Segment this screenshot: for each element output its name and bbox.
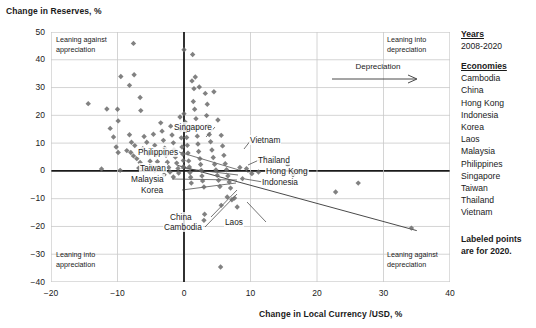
legend-footnote: Labeled points are for 2020. — [461, 233, 533, 257]
quadrant-note-line1: Leaning into — [56, 250, 95, 260]
x-axis-title: Change in Local Currency /USD, % — [259, 309, 402, 319]
point-label-malaysia: Malaysia — [130, 174, 165, 184]
legend-economy-malaysia: Malaysia — [461, 145, 533, 157]
quadrant-note-line2: appreciation — [56, 45, 107, 55]
quadrant-note-line2: depreciation — [387, 45, 426, 55]
legend-spacer — [461, 52, 533, 60]
legend-economy-thailand: Thailand — [461, 194, 533, 206]
legend-economy-vietnam: Vietnam — [461, 206, 533, 218]
point-label-cambodia: Cambodia — [163, 222, 203, 232]
x-tick-label: 30 — [364, 288, 404, 298]
legend-economy-korea: Korea — [461, 121, 533, 133]
y-tick-label: −20 — [17, 221, 45, 231]
quadrant-note-line1: Leaning against — [56, 35, 107, 45]
quadrant-note-bottom-left: Leaning intoappreciation — [56, 250, 95, 269]
point-label-singapore: Singapore — [173, 122, 213, 132]
point-label-taiwan: Taiwan — [139, 163, 167, 173]
legend-economy-philippines: Philippines — [461, 158, 533, 170]
quadrant-note-top-right: Leaning intodepreciation — [387, 35, 426, 54]
depreciation-label: Depreciation — [330, 62, 426, 71]
point-label-hong-kong: Hong Kong — [265, 166, 309, 176]
y-tick-label: 50 — [17, 27, 45, 37]
y-tick-label: −30 — [17, 249, 45, 259]
x-tick-label: 10 — [231, 288, 271, 298]
point-label-thailand: Thailand — [257, 155, 291, 165]
x-tick-label: 20 — [297, 288, 337, 298]
quadrant-note-line2: appreciation — [56, 260, 95, 270]
legend-footnote-line2: are for 2020. — [461, 245, 533, 257]
quadrant-note-line1: Leaning against — [387, 250, 438, 260]
depreciation-annotation: Depreciation — [330, 62, 426, 89]
y-tick-label: −10 — [17, 193, 45, 203]
legend-years-heading: Years — [461, 28, 533, 40]
x-tick-label: −20 — [31, 288, 71, 298]
legend-economy-taiwan: Taiwan — [461, 182, 533, 194]
point-label-indonesia: Indonesia — [261, 177, 299, 187]
legend-panel: Years 2008-2020 Economies CambodiaChinaH… — [461, 28, 533, 257]
legend-economy-hong-kong: Hong Kong — [461, 97, 533, 109]
point-label-korea: Korea — [140, 185, 164, 195]
point-label-china: China — [169, 212, 193, 222]
quadrant-note-bottom-right: Leaning againstdepreciation — [387, 250, 438, 269]
legend-economies-heading: Economies — [461, 60, 533, 72]
legend-years-value: 2008-2020 — [461, 40, 533, 52]
x-tick-label: 40 — [430, 288, 470, 298]
quadrant-note-top-left: Leaning againstappreciation — [56, 35, 107, 54]
arrow-right-icon — [330, 73, 426, 85]
x-tick-label: 0 — [164, 288, 204, 298]
legend-economies-list: CambodiaChinaHong KongIndonesiaKoreaLaos… — [461, 72, 533, 218]
point-label-laos: Laos — [224, 217, 244, 227]
y-tick-label: 40 — [17, 54, 45, 64]
y-tick-label: −40 — [17, 277, 45, 287]
legend-economy-laos: Laos — [461, 133, 533, 145]
quadrant-note-line2: depreciation — [387, 260, 438, 270]
point-label-vietnam: Vietnam — [249, 135, 281, 145]
y-tick-label: 10 — [17, 138, 45, 148]
y-tick-label: 0 — [17, 165, 45, 175]
legend-economy-indonesia: Indonesia — [461, 109, 533, 121]
y-tick-label: 20 — [17, 110, 45, 120]
legend-economy-china: China — [461, 84, 533, 96]
legend-economy-cambodia: Cambodia — [461, 72, 533, 84]
chart-root: Change in Reserves, % Change in Local Cu… — [0, 0, 536, 328]
quadrant-note-line1: Leaning into — [387, 35, 426, 45]
legend-economy-singapore: Singapore — [461, 170, 533, 182]
y-tick-label: 30 — [17, 82, 45, 92]
legend-footnote-line1: Labeled points — [461, 233, 533, 245]
y-axis-title: Change in Reserves, % — [6, 6, 102, 16]
point-label-philippines: Philippines — [137, 147, 179, 157]
x-tick-label: −10 — [98, 288, 138, 298]
